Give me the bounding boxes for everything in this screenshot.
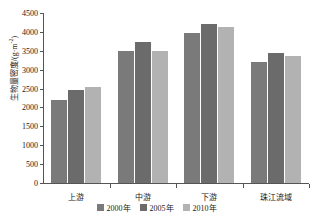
bar [268, 53, 284, 183]
y-tick-label: 4000 [4, 27, 38, 36]
legend-swatch-icon [97, 204, 104, 211]
x-category-label: 上游 [68, 191, 84, 202]
y-tick-label: 1000 [4, 141, 38, 150]
legend-swatch-icon [140, 204, 147, 211]
y-tick [40, 126, 44, 127]
y-tick-label: 2500 [4, 84, 38, 93]
legend-item[interactable]: 2010年 [183, 202, 217, 213]
y-tick [40, 145, 44, 146]
y-tick [40, 107, 44, 108]
legend-item[interactable]: 2005年 [140, 202, 174, 213]
y-tick-label: 0 [4, 179, 38, 188]
y-tick [40, 164, 44, 165]
x-category-label: 中游 [135, 191, 151, 202]
bar [285, 56, 301, 183]
x-category-label: 下游 [201, 191, 217, 202]
y-tick-label: 3500 [4, 46, 38, 55]
x-tick [110, 184, 111, 188]
x-tick [309, 184, 310, 188]
x-category-label: 珠江流域 [260, 191, 292, 202]
bar [184, 33, 200, 183]
y-tick-label: 2000 [4, 103, 38, 112]
bar [51, 100, 67, 183]
legend-label: 2005年 [150, 202, 174, 213]
bar [251, 62, 267, 183]
y-tick-label: 3000 [4, 65, 38, 74]
x-tick [176, 184, 177, 188]
legend-label: 2010年 [193, 202, 217, 213]
y-axis-title-exponent: -2 [8, 38, 14, 43]
y-tick [40, 183, 44, 184]
y-axis-line [43, 13, 44, 184]
y-tick [40, 32, 44, 33]
bar [118, 51, 134, 183]
legend-label: 2000年 [107, 202, 131, 213]
bar [85, 87, 101, 183]
bar [201, 24, 217, 183]
legend-swatch-icon [183, 204, 190, 211]
x-tick [243, 184, 244, 188]
y-tick [40, 70, 44, 71]
y-tick-label: 4500 [4, 9, 38, 18]
bar-chart: 生物量密度/(g·m-2) 05001000150020002500300035… [0, 0, 313, 223]
y-tick [40, 13, 44, 14]
y-tick-label: 500 [4, 160, 38, 169]
bar [218, 27, 234, 183]
y-tick-label: 1500 [4, 122, 38, 131]
chart-legend: 2000年2005年2010年 [0, 202, 313, 213]
legend-item[interactable]: 2000年 [97, 202, 131, 213]
y-tick [40, 51, 44, 52]
bar [152, 51, 168, 183]
bar [135, 42, 151, 183]
bar [68, 90, 84, 183]
plot-area: 050010001500200025003000350040004500 上游中… [43, 13, 309, 184]
y-tick [40, 89, 44, 90]
